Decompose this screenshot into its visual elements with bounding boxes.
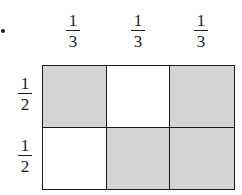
fraction-bar bbox=[131, 30, 145, 31]
numerator: 1 bbox=[69, 12, 78, 29]
numerator: 1 bbox=[134, 12, 143, 29]
cell-r1-c3 bbox=[170, 66, 234, 128]
numerator: 1 bbox=[197, 12, 206, 29]
numerator: 1 bbox=[21, 75, 30, 92]
fraction-bar bbox=[18, 93, 32, 94]
column-label-2: 1 3 bbox=[131, 12, 145, 50]
bullet-marker bbox=[1, 29, 5, 33]
cell-r1-c1 bbox=[43, 66, 107, 128]
denominator: 2 bbox=[21, 96, 30, 113]
row-label-2: 1 2 bbox=[18, 137, 32, 175]
fraction-bar bbox=[18, 155, 32, 156]
denominator: 2 bbox=[21, 158, 30, 175]
row-label-1: 1 2 bbox=[18, 75, 32, 113]
cell-r2-c2 bbox=[107, 128, 171, 190]
numerator: 1 bbox=[21, 137, 30, 154]
denominator: 3 bbox=[197, 33, 206, 50]
fraction-bar bbox=[194, 30, 208, 31]
fraction-bar bbox=[66, 30, 80, 31]
column-label-3: 1 3 bbox=[194, 12, 208, 50]
column-label-1: 1 3 bbox=[66, 12, 80, 50]
denominator: 3 bbox=[134, 33, 143, 50]
fraction-grid bbox=[42, 65, 235, 190]
denominator: 3 bbox=[69, 33, 78, 50]
cell-r1-c2 bbox=[107, 66, 171, 128]
cell-r2-c3 bbox=[170, 128, 234, 190]
cell-r2-c1 bbox=[43, 128, 107, 190]
